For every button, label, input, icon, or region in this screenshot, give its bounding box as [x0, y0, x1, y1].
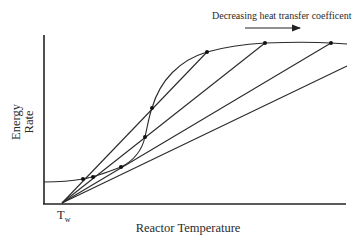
intersection-point — [263, 41, 267, 45]
intersection-point — [329, 41, 333, 45]
x-axis-label: Reactor Temperature — [136, 221, 241, 235]
y-axis-label-energy: Energy — [9, 103, 23, 140]
diagram-canvas: Decreasing heat transfer coefficent Ener… — [0, 0, 358, 240]
removal-line-3 — [62, 43, 331, 203]
intersection-point — [119, 165, 123, 169]
y-axis-label-rate: Rate — [22, 110, 36, 133]
energy-balance-diagram: Decreasing heat transfer coefficent Ener… — [0, 0, 358, 240]
removal-line-2 — [62, 43, 265, 203]
tw-label-sub: w — [65, 215, 71, 224]
intersection-point — [150, 106, 154, 110]
intersection-point — [91, 175, 95, 179]
heat-transfer-annotation: Decreasing heat transfer coefficent — [212, 10, 352, 21]
removal-line-4 — [62, 66, 347, 203]
intersection-point — [143, 135, 147, 139]
intersection-point — [205, 50, 209, 54]
intersection-point — [81, 177, 85, 181]
tw-label: Tw — [57, 208, 71, 224]
